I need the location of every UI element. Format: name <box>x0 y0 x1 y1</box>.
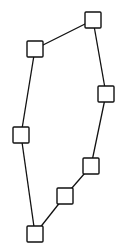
graph-diagram <box>0 0 123 252</box>
node-n6 <box>27 226 43 242</box>
edge-n2-n3 <box>93 20 106 94</box>
node-n2 <box>85 12 101 28</box>
node-n1 <box>27 41 43 57</box>
edge-n6-n7 <box>21 135 35 234</box>
edge-n3-n4 <box>91 94 106 166</box>
edge-n7-n1 <box>21 49 35 135</box>
node-n4 <box>83 158 99 174</box>
node-n3 <box>98 86 114 102</box>
node-n7 <box>13 127 29 143</box>
node-n5 <box>57 188 73 204</box>
